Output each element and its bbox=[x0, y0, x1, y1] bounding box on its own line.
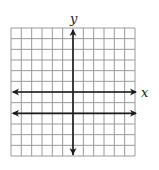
x-axis-label: x bbox=[141, 85, 149, 100]
coordinate-plane: x y bbox=[0, 0, 159, 170]
series-line-group bbox=[12, 110, 137, 117]
series-group bbox=[12, 110, 137, 117]
y-axis-label: y bbox=[69, 11, 78, 26]
axes bbox=[12, 29, 137, 155]
